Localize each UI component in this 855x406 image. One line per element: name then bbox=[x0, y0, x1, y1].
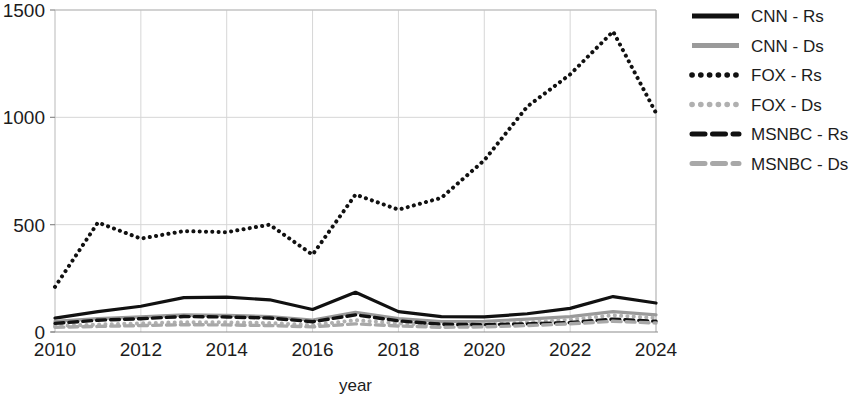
legend-label-msnbc-ds: MSNBC - Ds bbox=[751, 155, 848, 174]
legend-label-fox-ds: FOX - Ds bbox=[751, 96, 822, 115]
x-axis-title: year bbox=[339, 376, 372, 395]
x-tick-label: 2018 bbox=[377, 339, 419, 360]
y-axis-tick-labels: 050010001500 bbox=[3, 0, 45, 343]
x-tick-label: 2016 bbox=[291, 339, 333, 360]
chart-legend: CNN - RsCNN - DsFOX - RsFOX - DsMSNBC - … bbox=[692, 7, 848, 174]
x-tick-label: 2022 bbox=[549, 339, 591, 360]
x-axis-tick-labels: 20102012201420162018202020222024 bbox=[34, 339, 678, 360]
series-line-msnbc-ds bbox=[55, 321, 656, 327]
plot-border bbox=[55, 10, 656, 332]
series-line-fox-rs bbox=[55, 31, 656, 286]
y-tick-label: 1000 bbox=[3, 107, 45, 128]
chart-figure: 050010001500 201020122014201620182020202… bbox=[0, 0, 855, 406]
x-tick-label: 2012 bbox=[120, 339, 162, 360]
legend-label-fox-rs: FOX - Rs bbox=[751, 66, 822, 85]
x-tick-label: 2024 bbox=[635, 339, 678, 360]
data-series-layer bbox=[55, 31, 656, 327]
legend-label-cnn-rs: CNN - Rs bbox=[751, 7, 824, 26]
y-tick-label: 1500 bbox=[3, 0, 45, 21]
legend-label-cnn-ds: CNN - Ds bbox=[751, 37, 824, 56]
x-tick-label: 2010 bbox=[34, 339, 76, 360]
x-tick-label: 2020 bbox=[463, 339, 505, 360]
x-tick-label: 2014 bbox=[206, 339, 249, 360]
gridlines bbox=[55, 10, 656, 332]
chart-canvas: 050010001500 201020122014201620182020202… bbox=[0, 0, 855, 406]
y-tick-label: 500 bbox=[13, 215, 45, 236]
legend-label-msnbc-rs: MSNBC - Rs bbox=[751, 125, 848, 144]
